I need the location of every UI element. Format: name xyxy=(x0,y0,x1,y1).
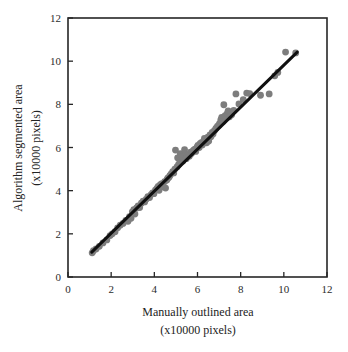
scatter-plot-figure: 024681012 024681012 Manually outlined ar… xyxy=(0,0,348,352)
x-tick-label: 2 xyxy=(108,283,114,295)
data-point xyxy=(233,91,240,98)
x-tick-label: 10 xyxy=(278,283,290,295)
x-axis-tick-labels: 024681012 xyxy=(65,283,332,295)
x-axis-title: Manually outlined area xyxy=(142,305,254,319)
y-axis-subtitle: (x10000 pixels) xyxy=(29,110,43,186)
plot-canvas: 024681012 024681012 Manually outlined ar… xyxy=(0,0,348,352)
y-axis-tick-labels: 024681012 xyxy=(50,12,62,283)
data-point xyxy=(162,185,169,192)
y-tick-label: 2 xyxy=(56,228,62,240)
x-tick-label: 6 xyxy=(195,283,201,295)
x-tick-label: 12 xyxy=(322,283,333,295)
y-axis-title: Algorithm segmented area xyxy=(11,84,25,212)
x-tick-label: 0 xyxy=(65,283,71,295)
data-point xyxy=(282,49,289,56)
x-axis-subtitle: (x10000 pixels) xyxy=(160,323,236,337)
y-tick-label: 10 xyxy=(50,55,62,67)
data-point xyxy=(257,92,264,99)
y-tick-label: 8 xyxy=(56,98,62,110)
trend-line-segment xyxy=(92,52,297,252)
x-tick-label: 4 xyxy=(152,283,158,295)
regression-trend-line xyxy=(92,52,297,252)
y-tick-label: 0 xyxy=(56,271,62,283)
y-tick-label: 12 xyxy=(50,12,61,24)
y-tick-label: 6 xyxy=(56,142,62,154)
y-tick-label: 4 xyxy=(56,185,62,197)
data-point xyxy=(220,101,227,108)
x-tick-label: 8 xyxy=(238,283,244,295)
data-point xyxy=(266,91,273,98)
